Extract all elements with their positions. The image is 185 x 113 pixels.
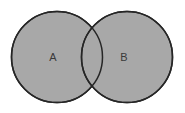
venn-diagram-canvas: A B bbox=[0, 0, 185, 113]
set-a-label: A bbox=[49, 51, 57, 63]
set-b-label: B bbox=[120, 51, 128, 63]
venn-diagram-figure: A B bbox=[0, 0, 185, 113]
